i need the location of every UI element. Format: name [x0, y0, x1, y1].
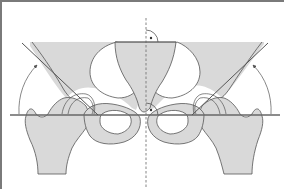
diagram-frame — [0, 0, 284, 189]
pelvis-diagram — [2, 2, 284, 189]
left-angle-arc-arrow — [19, 65, 37, 114]
right-angle-arc-arrow — [253, 65, 271, 114]
top-right-angle-marker — [146, 30, 158, 42]
left-femur — [25, 97, 89, 174]
right-femur — [199, 97, 263, 174]
